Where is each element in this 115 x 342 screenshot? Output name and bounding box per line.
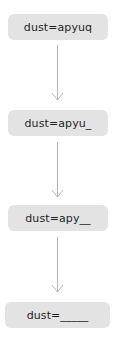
node-2: dust=apyu_ bbox=[8, 110, 108, 136]
node-4: dust=_____ bbox=[5, 302, 110, 328]
node-3: dust=apy__ bbox=[8, 205, 108, 231]
node-1: dust=apyuq bbox=[8, 14, 108, 40]
arrow-down-icon bbox=[0, 236, 115, 296]
arrow-down-icon bbox=[0, 44, 115, 104]
arrow-down-icon bbox=[0, 141, 115, 201]
